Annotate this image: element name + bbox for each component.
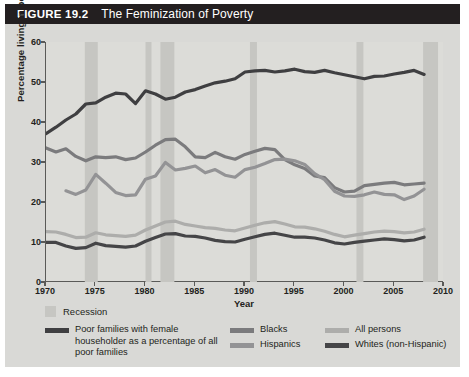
x-tick-label: 1990: [234, 286, 254, 296]
legend-item: All persons: [325, 324, 446, 336]
x-tick-mark: [243, 282, 244, 286]
x-tick-mark: [442, 282, 443, 286]
x-tick-label: 1995: [284, 286, 304, 296]
x-tick-mark: [343, 282, 344, 286]
y-tick-label: 30: [31, 157, 41, 167]
legend-column-1: Poor families with female householder as…: [45, 324, 230, 362]
legend-swatch: [230, 343, 254, 348]
recession-label: Recession: [63, 306, 107, 317]
y-axis-title: Percentage living in poverty: [15, 0, 26, 102]
chart-line-series: [46, 221, 424, 237]
x-tick-mark: [293, 282, 294, 286]
legend-column-2: BlacksHispanics: [230, 324, 325, 353]
legend-item-label: Blacks: [260, 324, 287, 336]
y-tick-label: 60: [31, 37, 41, 47]
chart-line-series: [66, 159, 424, 199]
legend-series-grid: Poor families with female householder as…: [45, 324, 455, 362]
y-tick-mark: [41, 161, 45, 162]
legend-item-label: Poor families with female householder as…: [75, 324, 230, 359]
x-tick-mark: [144, 282, 145, 286]
legend-swatch: [45, 328, 69, 333]
legend-item: Poor families with female householder as…: [45, 324, 230, 359]
y-tick-label: 10: [31, 237, 41, 247]
legend-item-label: Whites (non-Hispanic): [355, 339, 446, 351]
legend-item: Blacks: [230, 324, 325, 336]
recession-band: [146, 42, 152, 282]
legend-swatch: [325, 343, 349, 348]
legend-swatch: [230, 328, 254, 333]
chart-legend: Recession Poor families with female hous…: [45, 306, 455, 362]
chart-line-series: [46, 69, 424, 133]
chart-plot-area: [45, 42, 443, 282]
figure-title: The Feminization of Poverty: [101, 7, 253, 21]
y-tick-label: 20: [31, 197, 41, 207]
y-tick-mark: [41, 121, 45, 122]
y-tick-mark: [41, 41, 45, 42]
x-tick-mark: [94, 282, 95, 286]
figure-number: FIGURE 19.2: [17, 8, 88, 20]
x-tick-label: 2010: [433, 286, 453, 296]
x-tick-label: 2000: [333, 286, 353, 296]
legend-item: Whites (non-Hispanic): [325, 339, 446, 351]
legend-item-label: All persons: [355, 324, 401, 336]
x-tick-label: 1975: [85, 286, 105, 296]
y-tick-mark: [41, 241, 45, 242]
x-tick-label: 2005: [383, 286, 403, 296]
chart-svg: [46, 42, 444, 282]
x-tick-mark: [44, 282, 45, 286]
legend-item-label: Hispanics: [260, 339, 300, 351]
legend-item: Hispanics: [230, 339, 325, 351]
x-tick-mark: [393, 282, 394, 286]
x-tick-label: 1970: [35, 286, 55, 296]
figure-body-panel: Percentage living in poverty 01020304050…: [5, 24, 460, 367]
y-tick-label: 50: [31, 77, 41, 87]
figure-container: FIGURE 19.2 The Feminization of Poverty …: [0, 0, 469, 377]
recession-band: [423, 42, 438, 282]
chart-line-series: [46, 139, 424, 192]
chart-plot-wrapper: Percentage living in poverty 01020304050…: [45, 42, 443, 282]
y-tick-label: 40: [31, 117, 41, 127]
x-tick-label: 1980: [134, 286, 154, 296]
recession-band: [250, 42, 257, 282]
x-tick-label: 1985: [184, 286, 204, 296]
x-tick-mark: [194, 282, 195, 286]
legend-swatch: [325, 328, 349, 333]
legend-column-3: All personsWhites (non-Hispanic): [325, 324, 446, 353]
y-tick-mark: [41, 201, 45, 202]
y-tick-mark: [41, 81, 45, 82]
figure-title-bar: FIGURE 19.2 The Feminization of Poverty: [5, 4, 460, 24]
legend-recession-row: Recession: [45, 306, 455, 317]
recession-swatch: [45, 306, 56, 317]
